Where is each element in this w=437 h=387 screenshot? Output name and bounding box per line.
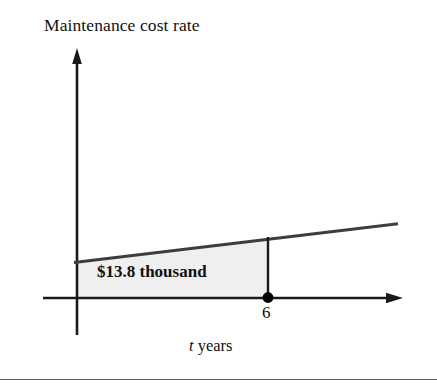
chart-title: Maintenance cost rate	[44, 17, 200, 35]
x-axis-arrow-icon	[386, 293, 403, 303]
maintenance-cost-rate-chart	[0, 0, 437, 387]
figure-container: Maintenance cost rate $13.8 thousand 6 t…	[0, 0, 437, 387]
x-axis-label-unit: years	[198, 336, 233, 355]
x-axis-tick-label-6: 6	[262, 304, 271, 321]
area-value-label: $13.8 thousand	[97, 263, 207, 280]
point-marker-t6	[263, 292, 274, 303]
y-axis-arrow-icon	[72, 48, 82, 64]
x-axis-label: t years	[189, 338, 233, 355]
x-axis-label-variable: t	[189, 336, 194, 355]
bottom-divider-rule	[0, 379, 437, 380]
